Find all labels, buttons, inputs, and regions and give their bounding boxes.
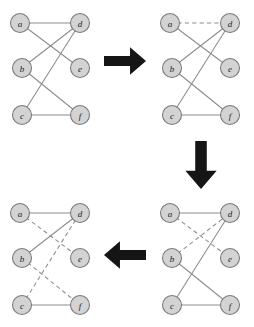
graph-node-d[interactable]: d <box>71 14 90 33</box>
graph-node-f[interactable]: f <box>71 106 90 125</box>
graph-step-3: abcdef <box>152 192 250 327</box>
graph-node-b[interactable]: b <box>163 249 182 268</box>
node-label-b: b <box>170 254 175 264</box>
graph-edge-b-f <box>22 68 80 115</box>
graph-node-b[interactable]: b <box>13 249 32 268</box>
graph-node-a[interactable]: a <box>161 14 180 33</box>
graph-node-f[interactable]: f <box>221 296 240 315</box>
node-label-c: c <box>20 301 24 311</box>
graph-node-e[interactable]: e <box>221 59 240 78</box>
node-label-d: d <box>78 209 83 219</box>
graph-edge-b-f <box>172 68 230 115</box>
graph-node-f[interactable]: f <box>71 296 90 315</box>
graph-node-c[interactable]: c <box>13 106 32 125</box>
node-label-e: e <box>228 254 232 264</box>
arrow-right-icon <box>104 46 146 76</box>
node-label-a: a <box>18 19 23 29</box>
node-label-c: c <box>170 301 174 311</box>
arrow-down-icon <box>184 141 218 189</box>
node-label-b: b <box>20 64 25 74</box>
graph-initial: abcdef <box>2 2 100 137</box>
graph-node-c[interactable]: c <box>163 296 182 315</box>
arrow-left-icon <box>104 240 146 270</box>
node-label-c: c <box>170 111 174 121</box>
graph-node-e[interactable]: e <box>71 59 90 78</box>
graph-node-a[interactable]: a <box>11 14 30 33</box>
node-label-a: a <box>168 19 173 29</box>
arrow-left-icon-shape <box>104 241 146 269</box>
node-label-d: d <box>228 19 233 29</box>
graph-node-e[interactable]: e <box>71 249 90 268</box>
graph-node-a[interactable]: a <box>11 204 30 223</box>
graph-node-b[interactable]: b <box>13 59 32 78</box>
figure-canvas: abcdefabcdefabcdefabcdef <box>0 0 254 327</box>
graph-edge-b-f <box>172 258 230 305</box>
graph-node-d[interactable]: d <box>221 204 240 223</box>
graph-node-a[interactable]: a <box>161 204 180 223</box>
graph-edge-b-d <box>172 213 230 258</box>
node-label-e: e <box>228 64 232 74</box>
node-label-b: b <box>20 254 25 264</box>
node-label-a: a <box>18 209 23 219</box>
graph-edge-b-d <box>22 213 80 258</box>
arrow-right-icon-shape <box>104 47 146 75</box>
node-label-d: d <box>228 209 233 219</box>
graph-node-c[interactable]: c <box>163 106 182 125</box>
node-label-d: d <box>78 19 83 29</box>
node-label-e: e <box>78 254 82 264</box>
node-label-b: b <box>170 64 175 74</box>
graph-node-c[interactable]: c <box>13 296 32 315</box>
graph-node-d[interactable]: d <box>221 14 240 33</box>
graph-node-f[interactable]: f <box>221 106 240 125</box>
graph-final: abcdef <box>2 192 100 327</box>
arrow-down-icon-shape <box>185 141 216 189</box>
node-label-a: a <box>168 209 173 219</box>
graph-edge-b-f <box>22 258 80 305</box>
graph-step-2: abcdef <box>152 2 250 137</box>
graph-node-d[interactable]: d <box>71 204 90 223</box>
graph-node-e[interactable]: e <box>221 249 240 268</box>
node-label-c: c <box>20 111 24 121</box>
graph-node-b[interactable]: b <box>163 59 182 78</box>
node-label-e: e <box>78 64 82 74</box>
